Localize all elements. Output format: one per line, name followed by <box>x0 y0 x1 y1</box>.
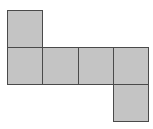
net-square-row1-col2 <box>78 47 114 85</box>
net-square-top <box>7 10 43 48</box>
net-square-row1-col3 <box>113 47 149 85</box>
net-square-row1-col0 <box>7 47 43 85</box>
net-square-bottom <box>113 84 149 122</box>
net-square-row1-col1 <box>42 47 78 85</box>
